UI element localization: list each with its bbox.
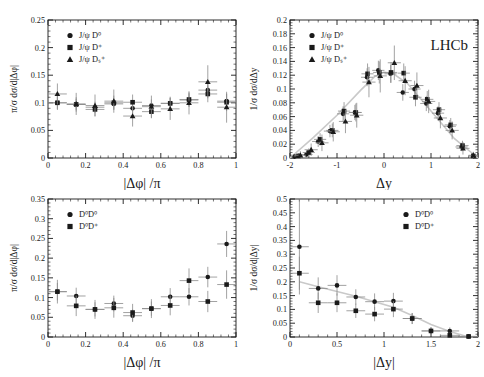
x-tick-label: 0 (288, 340, 292, 349)
y-tick-label: 0 (41, 333, 45, 342)
panel-bottom-right: 00.511.5200.050.10.150.20.250.30.350.40.… (242, 187, 484, 377)
plot-top-left: 00.20.40.60.8100.050.10.150.20.25J/ψ D⁰J… (0, 0, 242, 190)
y-axis-title: 1/σ dσ/dΔy (249, 67, 259, 110)
y-tick-label: 0.04 (273, 126, 287, 135)
panel-top-right: -2-101200.020.040.060.080.10.120.140.160… (242, 0, 484, 190)
legend-label: J/ψ Dₛ⁺ (321, 55, 347, 64)
y-tick-label: 0.18 (273, 30, 287, 39)
legend-entry: J/ψ Dₛ⁺ (309, 55, 347, 64)
legend-entry: J/ψ D⁰ (67, 31, 101, 40)
x-tick-label: 1 (234, 161, 238, 170)
x-tick-label: 2 (476, 340, 480, 349)
y-tick-label: 0.2 (35, 44, 45, 53)
legend-label: J/ψ Dₛ⁺ (79, 55, 105, 64)
y-tick-label: 0.3 (277, 250, 287, 259)
legend-label: J/ψ D⁰ (79, 31, 101, 40)
series-circle (290, 61, 478, 159)
x-tick-label: 0 (46, 340, 50, 349)
x-tick-label: 1.5 (426, 340, 436, 349)
y-tick-label: 0.45 (273, 209, 287, 218)
x-tick-label: 0.6 (156, 340, 166, 349)
legend-label: D⁰D⁺ (415, 222, 434, 231)
y-tick-label: 0.02 (273, 140, 287, 149)
y-tick-label: 0 (283, 333, 287, 342)
y-tick-label: 0.25 (31, 234, 45, 243)
y-axis-title: π/σ dσ/d|Δφ| (9, 244, 19, 292)
legend-entry: J/ψ D⁺ (67, 43, 102, 52)
legend-entry: J/ψ Dₛ⁺ (67, 55, 105, 64)
y-tick-label: 0.3 (35, 215, 45, 224)
y-tick-label: 0.1 (277, 305, 287, 314)
legend-entry: D⁰D⁰ (403, 210, 433, 219)
plot-bottom-right: 00.511.5200.050.10.150.20.250.30.350.40.… (242, 187, 484, 377)
y-tick-label: 0.05 (273, 319, 287, 328)
x-axis-title: |Δy| (373, 355, 395, 370)
y-tick-label: 0.2 (277, 278, 287, 287)
y-tick-label: 0.35 (273, 236, 287, 245)
y-tick-label: 0.1 (35, 294, 45, 303)
y-tick-label: 0 (41, 154, 45, 163)
legend-entry: J/ψ D⁺ (309, 43, 344, 52)
y-tick-label: 0.25 (31, 16, 45, 25)
y-tick-label: 0.2 (277, 16, 287, 25)
x-tick-label: -1 (334, 161, 341, 170)
legend-label: J/ψ D⁰ (321, 31, 343, 40)
y-tick-label: 0.12 (273, 71, 287, 80)
x-tick-label: 0.2 (80, 161, 90, 170)
x-tick-label: 0 (46, 161, 50, 170)
y-tick-label: 0.05 (31, 313, 45, 322)
legend-label: D⁰D⁰ (415, 210, 433, 219)
plot-frame (290, 199, 478, 337)
x-tick-label: 0.2 (80, 340, 90, 349)
x-tick-label: 0.8 (193, 340, 203, 349)
legend-label: J/ψ D⁺ (321, 43, 344, 52)
y-axis-title: 1/σ dσ/d|Δy| (249, 244, 259, 291)
legend-label: J/ψ D⁺ (79, 43, 102, 52)
x-tick-label: 1 (234, 340, 238, 349)
legend-entry: J/ψ D⁰ (309, 31, 343, 40)
x-tick-label: 1 (429, 161, 433, 170)
legend-entry: D⁰D⁰ (67, 210, 97, 219)
panel-top-left: 00.20.40.60.8100.050.10.150.20.25J/ψ D⁰J… (0, 0, 242, 190)
x-tick-label: 0.4 (118, 340, 128, 349)
y-tick-label: 0.25 (273, 264, 287, 273)
y-tick-label: 0.16 (273, 44, 287, 53)
y-tick-label: 0.06 (273, 113, 287, 122)
x-tick-label: 0.4 (118, 161, 128, 170)
x-tick-label: 0.5 (332, 340, 342, 349)
panel-bottom-left: 00.20.40.60.8100.050.10.150.20.250.30.35… (0, 187, 242, 377)
y-tick-label: 0.2 (35, 254, 45, 263)
series-square (290, 257, 478, 339)
y-tick-label: 0.08 (273, 99, 287, 108)
x-tick-label: 2 (476, 161, 480, 170)
y-tick-label: 0.15 (31, 274, 45, 283)
y-tick-label: 0.15 (273, 292, 287, 301)
experiment-label: LHCb (431, 37, 469, 53)
y-tick-label: 0 (283, 154, 287, 163)
x-tick-label: 1 (382, 340, 386, 349)
legend-entry: D⁰D⁺ (67, 222, 98, 231)
x-tick-label: 0 (382, 161, 386, 170)
lhcb-correlation-figure: 00.20.40.60.8100.050.10.150.20.25J/ψ D⁰J… (0, 0, 484, 377)
x-tick-label: 0.8 (193, 161, 203, 170)
y-tick-label: 0.4 (277, 223, 287, 232)
legend-label: D⁰D⁰ (79, 210, 97, 219)
legend-entry: D⁰D⁺ (403, 222, 434, 231)
y-tick-label: 0.1 (35, 99, 45, 108)
plot-top-right: -2-101200.020.040.060.080.10.120.140.160… (242, 0, 484, 190)
x-tick-label: -2 (287, 161, 294, 170)
y-tick-label: 0.14 (273, 57, 287, 66)
y-tick-label: 0.05 (31, 126, 45, 135)
series-circle (290, 199, 478, 339)
series-triangle (48, 65, 236, 126)
x-axis-title: |Δφ| /π (123, 355, 160, 370)
y-tick-label: 0.15 (31, 71, 45, 80)
y-tick-label: 0.35 (31, 195, 45, 204)
y-tick-label: 0.1 (277, 85, 287, 94)
y-axis-title: π/σ dσ/d|Δφ| (9, 65, 19, 113)
plot-bottom-left: 00.20.40.60.8100.050.10.150.20.250.30.35… (0, 187, 242, 377)
legend-label: D⁰D⁺ (79, 222, 98, 231)
y-tick-label: 0.5 (277, 195, 287, 204)
x-tick-label: 0.6 (156, 161, 166, 170)
